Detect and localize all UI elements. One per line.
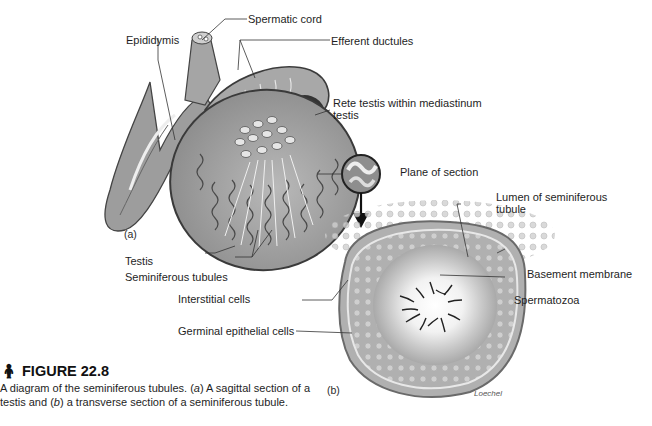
label-germinal-epithelial-cells: Germinal epithelial cells [178,325,294,337]
figure-number: FIGURE 22.8 [22,363,109,379]
label-efferent-ductules: Efferent ductules [331,35,413,47]
label-interstitial-cells: Interstitial cells [178,293,250,305]
panel-b-tag: (b) [327,384,340,396]
panel-a-tag: (a) [124,228,137,240]
illustrator-signature: Loechel [474,389,502,398]
figure-caption: 🧍︎ FIGURE 22.8 A diagram of the seminife… [0,363,320,409]
figure-title: 🧍︎ FIGURE 22.8 [0,363,320,379]
anatomy-figure-icon: 🧍︎ [0,363,18,379]
spermatic-cord-shape [185,32,220,105]
label-plane-of-section: Plane of section [400,166,478,178]
label-spermatic-cord: Spermatic cord [248,13,322,25]
label-seminiferous-tubules: Seminiferous tubules [125,271,228,283]
caption-text: A diagram of the seminiferous tubules. ( [0,382,194,394]
label-epididymis: Epididymis [126,34,179,46]
caption-text: ) a transverse section of a seminiferous… [60,396,288,408]
label-testis: Testis [125,255,153,267]
label-rete-testis: Rete testis within mediastinum testis [333,97,483,121]
label-spermatozoa: Spermatozoa [514,294,579,306]
figure-description: A diagram of the seminiferous tubules. (… [0,382,320,409]
label-basement-membrane: Basement membrane [527,268,632,280]
label-lumen: Lumen of seminiferous tubule [496,191,626,215]
